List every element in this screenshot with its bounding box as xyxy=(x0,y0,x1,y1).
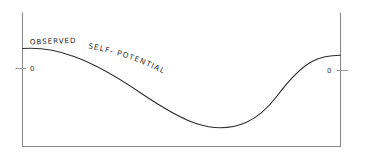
zero-label-right: 0 xyxy=(327,67,331,75)
self-potential-figure: OBSERVED SELF- POTENTIAL 0 0 xyxy=(0,0,365,158)
observed-label: OBSERVED xyxy=(30,36,77,47)
self-potential-label: SELF- POTENTIAL xyxy=(88,41,168,75)
self-potential-curve xyxy=(23,48,341,127)
zero-label-left: 0 xyxy=(30,65,34,73)
self-potential-label-text: SELF- POTENTIAL xyxy=(88,41,168,75)
